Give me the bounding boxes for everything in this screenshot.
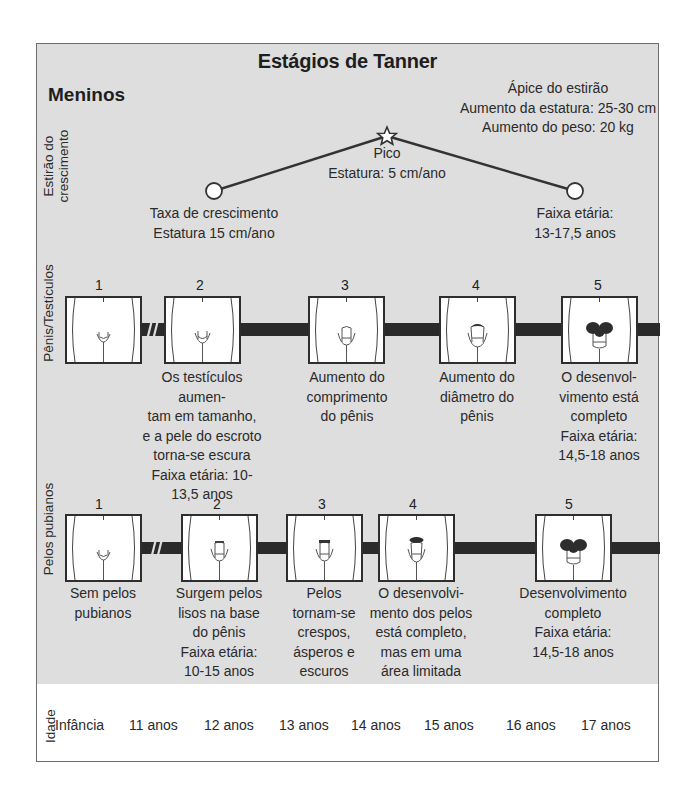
tanner-stages-figure: Estágios de Tanner Meninos Estirão do cr… [36, 43, 659, 762]
break-mark-icon [148, 537, 166, 561]
genitals-stage-number: 1 [89, 277, 109, 293]
caption-line: está completo, [361, 623, 481, 643]
genitals-stage-number: 2 [190, 277, 210, 293]
genitals-stage-number: 4 [466, 277, 486, 293]
caption-line: completo [508, 604, 638, 624]
pubic-hair-stage-number: 1 [89, 496, 109, 512]
pubic-hair-stage-5-caption: Desenvolvimento completo Faixa etária: 1… [508, 584, 638, 662]
caption-line: 10-15 anos [164, 662, 274, 682]
pubic-hair-stage-1-caption: Sem pelos pubianos [53, 584, 153, 623]
caption-line: O desenvol- [544, 368, 654, 388]
caption-line: 14,5-18 anos [544, 446, 654, 466]
caption-line: Aumento do [292, 368, 402, 388]
caption-line: tam em tamanho, [137, 407, 267, 427]
caption-line: vimento está [544, 388, 654, 408]
pubic-hair-stage-2-illustration [181, 514, 258, 582]
genitals-stage-2-caption: Os testículos aumen- tam em tamanho, e a… [137, 368, 267, 505]
caption-line: do pênis [164, 623, 274, 643]
genitals-stage-3-illustration [308, 296, 385, 364]
caption-line: Os testículos aumen- [137, 368, 267, 407]
pubic-hair-stage-5-illustration [535, 514, 612, 582]
age-tick: 12 anos [204, 717, 254, 733]
caption-line: ásperos e [279, 643, 369, 663]
pubic-hair-stage-4-caption: O desenvolvi- mento dos pelos está compl… [361, 584, 481, 682]
caption-line: Faixa etária: [164, 643, 274, 663]
caption-line: torna-se escura [137, 446, 267, 466]
caption-line: escuros [279, 662, 369, 682]
genitals-stage-number: 3 [335, 277, 355, 293]
pubic-hair-stage-3-illustration [286, 514, 363, 582]
caption-line: mento dos pelos [361, 604, 481, 624]
caption-line: pubianos [53, 604, 153, 624]
start-circle-icon [206, 183, 222, 199]
caption-line: Surgem pelos [164, 584, 274, 604]
peak-annotation: Pico Estatura: 5 cm/ano [317, 144, 457, 183]
age-tick: 13 anos [279, 717, 329, 733]
row-label-genitals: Pênis/Testículos [41, 258, 56, 368]
start-annotation: Taxa de crescimento Estatura 15 cm/ano [139, 204, 289, 243]
pubic-hair-stage-1-illustration [65, 514, 142, 582]
pubic-hair-stage-2-caption: Surgem pelos lisos na base do pênis Faix… [164, 584, 274, 682]
genitals-stage-4-caption: Aumento do diâmetro do pênis [422, 368, 532, 427]
caption-line: mas em uma [361, 643, 481, 663]
caption-line: completo [544, 407, 654, 427]
caption-line: Sem pelos [53, 584, 153, 604]
pubic-hair-stage-3-caption: Pelos tornam-se crespos, ásperos e escur… [279, 584, 369, 682]
genitals-stage-3-caption: Aumento do comprimento do pênis [292, 368, 402, 427]
end-annotation: Faixa etária: 13-17,5 anos [515, 204, 635, 243]
start-label: Taxa de crescimento [139, 204, 289, 224]
peak-rate: Estatura: 5 cm/ano [317, 164, 457, 184]
age-tick: 11 anos [129, 717, 178, 733]
genitals-stage-1-illustration [65, 296, 142, 364]
genitals-stage-number: 5 [588, 277, 608, 293]
genitals-stage-5-illustration [561, 296, 638, 364]
caption-line: crespos, [279, 623, 369, 643]
end-circle-icon [567, 183, 583, 199]
pubic-hair-stage-number: 2 [207, 496, 227, 512]
caption-line: comprimento [292, 388, 402, 408]
age-tick: 17 anos [581, 717, 631, 733]
age-tick: 14 anos [351, 717, 401, 733]
row-label-pubic-hair: Pelos pubianos [41, 479, 56, 579]
caption-line: 13,5 anos [137, 485, 267, 505]
caption-line: O desenvolvi- [361, 584, 481, 604]
caption-line: Faixa etária: 10- [137, 466, 267, 486]
age-tick: 15 anos [424, 717, 474, 733]
caption-line: diâmetro do [422, 388, 532, 408]
caption-line: pênis [422, 407, 532, 427]
pubic-hair-stage-number: 3 [312, 496, 332, 512]
caption-line: 14,5-18 anos [508, 643, 638, 663]
caption-line: Pelos [279, 584, 369, 604]
peak-label: Pico [317, 144, 457, 164]
caption-line: área limitada [361, 662, 481, 682]
end-age-range: 13-17,5 anos [515, 224, 635, 244]
start-rate: Estatura 15 cm/ano [139, 224, 289, 244]
caption-line: Desenvolvimento [508, 584, 638, 604]
break-mark-icon [144, 318, 162, 342]
end-label: Faixa etária: [515, 204, 635, 224]
peak-star-icon [378, 127, 397, 144]
genitals-stage-5-caption: O desenvol- vimento está completo Faixa … [544, 368, 654, 466]
pubic-hair-stage-4-illustration [378, 514, 455, 582]
genitals-stage-4-illustration [439, 296, 516, 364]
pubic-hair-stage-number: 4 [403, 496, 423, 512]
age-tick: Infância [55, 717, 104, 733]
caption-line: Aumento do [422, 368, 532, 388]
caption-line: lisos na base [164, 604, 274, 624]
caption-line: tornam-se [279, 604, 369, 624]
pubic-hair-stage-number: 5 [559, 496, 579, 512]
caption-line: Faixa etária: [508, 623, 638, 643]
caption-line: do pênis [292, 407, 402, 427]
age-tick: 16 anos [506, 717, 556, 733]
caption-line: e a pele do escroto [137, 427, 267, 447]
genitals-stage-2-illustration [164, 296, 241, 364]
caption-line: Faixa etária: [544, 427, 654, 447]
